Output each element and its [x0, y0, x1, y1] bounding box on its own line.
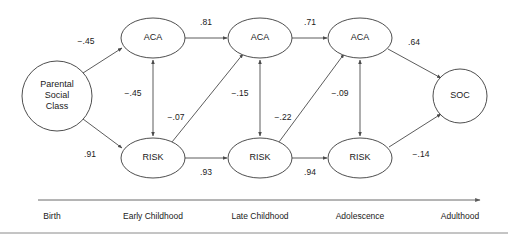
- node-risk-adolescence[interactable]: RISK: [328, 138, 392, 178]
- coef-aca2-risk2: −.15: [232, 88, 249, 98]
- coef-risk3-soc: −.14: [413, 149, 430, 159]
- stage-label-late-childhood: Late Childhood: [231, 211, 288, 221]
- diagram-canvas: Parental Social Class ACA ACA ACA RISK: [0, 0, 508, 242]
- coef-aca2-aca3: .71: [304, 17, 316, 27]
- edge-psc-risk1: [83, 119, 122, 148]
- risk1-label: RISK: [142, 152, 163, 162]
- aca2-label: ACA: [251, 32, 270, 42]
- coef-aca1-aca2: .81: [200, 17, 212, 27]
- coef-risk2-aca3: −.22: [275, 112, 292, 122]
- node-aca-late-childhood[interactable]: ACA: [228, 18, 292, 58]
- aca1-label: ACA: [144, 32, 163, 42]
- node-aca-early-childhood[interactable]: ACA: [121, 18, 185, 58]
- coef-psc-aca1: −.45: [78, 36, 95, 46]
- psc-label-line3: Class: [46, 101, 69, 111]
- edge-risk3-soc: [389, 114, 441, 147]
- node-parental-social-class[interactable]: Parental Social Class: [22, 61, 92, 131]
- coef-risk2-risk3: .94: [304, 167, 316, 177]
- coef-aca3-soc: .64: [408, 37, 420, 47]
- stage-label-adulthood: Adulthood: [441, 211, 480, 221]
- coef-aca3-risk3: −.09: [332, 88, 349, 98]
- edge-psc-aca1: [83, 48, 122, 73]
- stage-label-adolescence: Adolescence: [336, 211, 385, 221]
- risk2-label: RISK: [249, 152, 270, 162]
- coef-risk1-risk2: .93: [200, 167, 212, 177]
- psc-label-line1: Parental: [40, 79, 74, 89]
- node-risk-early-childhood[interactable]: RISK: [121, 138, 185, 178]
- node-risk-late-childhood[interactable]: RISK: [228, 138, 292, 178]
- coef-aca1-risk1: −.45: [125, 88, 142, 98]
- timeline-axis: Birth Early Childhood Late Childhood Ado…: [38, 200, 480, 221]
- stage-label-early-childhood: Early Childhood: [123, 211, 183, 221]
- psc-label-line2: Social: [45, 90, 70, 100]
- node-soc[interactable]: SOC: [433, 69, 487, 123]
- risk3-label: RISK: [349, 152, 370, 162]
- coef-psc-risk1: .91: [84, 149, 96, 159]
- aca3-label: ACA: [351, 32, 370, 42]
- path-diagram-figure: Parental Social Class ACA ACA ACA RISK: [0, 0, 508, 242]
- edge-aca3-soc: [388, 49, 441, 78]
- node-aca-adolescence[interactable]: ACA: [328, 18, 392, 58]
- coef-risk1-aca2: −.07: [168, 112, 185, 122]
- stage-label-birth: Birth: [43, 211, 61, 221]
- soc-label: SOC: [450, 90, 470, 100]
